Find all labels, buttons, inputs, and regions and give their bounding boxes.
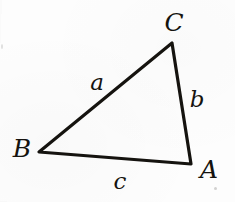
vertex-label-B: B bbox=[13, 136, 31, 161]
vertex-label-A: A bbox=[200, 157, 218, 182]
side-label-c: c bbox=[114, 170, 127, 193]
triangle-outline bbox=[39, 43, 191, 164]
geometry-figure: C B A a b c bbox=[0, 0, 235, 202]
side-label-b: b bbox=[190, 88, 205, 111]
side-label-a: a bbox=[90, 71, 104, 94]
vertex-label-C: C bbox=[164, 10, 183, 35]
